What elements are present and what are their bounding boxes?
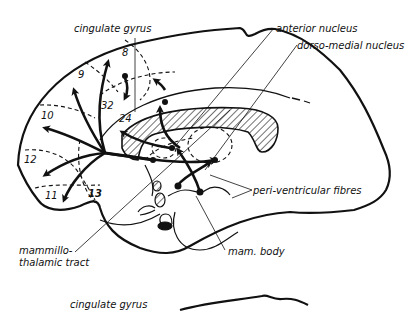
area-number-12: 12 [24,155,37,165]
brainstem-outline [174,212,238,250]
area-number-8: 8 [122,48,128,58]
area-number-24: 24 [119,114,132,124]
brain-outline [18,28,390,253]
area-number-32: 32 [101,101,114,111]
diencephalon-structures [138,165,230,230]
label-cingulate-gyrus-lower: cingulate gyrus [70,299,147,310]
area-number-11: 11 [45,191,58,201]
label-mammillo-thalamic-tract-line2: thalamic tract [19,257,89,268]
area-number-9: 9 [78,70,84,80]
label-mammillo-thalamic-tract-line1: mammillo- [19,245,72,256]
area-number-13: 13 [88,189,102,199]
lower-brain-outline [180,296,308,310]
label-mam-body: mam. body [228,246,285,257]
label-peri-ventricular-fibres: peri-ventricular fibres [253,185,362,196]
label-cingulate-gyrus: cingulate gyrus [74,23,151,34]
label-dorso-medial-nucleus: dorso-medial nucleus [297,40,404,51]
area-number-10: 10 [41,111,54,121]
corpus-callosum [122,108,278,160]
brain-diagram: cingulate gyrus anterior nucleus dorso-m… [0,0,418,312]
label-anterior-nucleus: anterior nucleus [276,23,358,34]
